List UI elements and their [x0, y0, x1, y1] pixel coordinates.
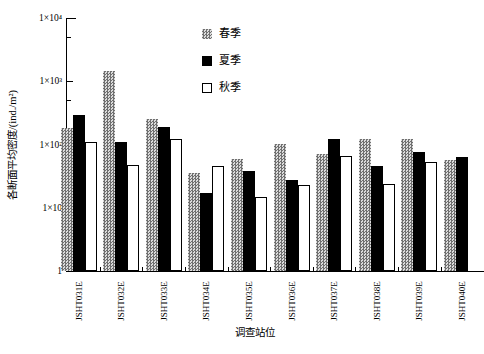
bar-black-JSHT038E	[371, 166, 383, 271]
x-category-label: JSHT035E	[243, 276, 255, 326]
y-tick-label: 1×10	[16, 202, 62, 214]
bar-white-JSHT034E	[212, 166, 224, 271]
bar-hatch-JSHT039E	[401, 139, 413, 271]
bar-white-JSHT031E	[85, 142, 97, 271]
x-category-label: JSHT036E	[286, 276, 298, 326]
y-tick-label: 1×10⁴	[16, 12, 62, 24]
summer-black-swatch-icon	[202, 56, 212, 66]
bar-black-JSHT031E	[73, 115, 85, 271]
bar-black-JSHT037E	[328, 139, 340, 271]
x-category-label: JSHT032E	[115, 276, 127, 326]
y-major-tick	[67, 81, 73, 82]
y-major-tick	[67, 18, 76, 19]
x-axis-line	[66, 271, 484, 272]
legend-label-autumn: 秋季	[219, 81, 241, 94]
bar-black-JSHT039E	[413, 152, 425, 271]
bar-white-JSHT037E	[340, 156, 352, 271]
y-tick-label: 1×10²	[16, 139, 62, 151]
y-major-tick	[67, 271, 73, 272]
bar-hatch-JSHT036E	[274, 144, 286, 271]
x-tick	[100, 267, 101, 271]
bar-hatch-JSHT040E	[444, 160, 456, 271]
bar-chart-figure: 各断面平均密度/(ind./m²) 1×10⁴1×10³1×10²1×101JS…	[0, 0, 484, 354]
bar-hatch-JSHT038E	[359, 139, 371, 271]
x-tick	[185, 267, 186, 271]
bar-hatch-JSHT034E	[188, 173, 200, 271]
y-tick-label: 1	[16, 265, 62, 277]
x-category-label: JSHT039E	[413, 276, 425, 326]
bar-hatch-JSHT031E	[61, 128, 73, 271]
legend-label-spring: 春季	[219, 27, 241, 40]
x-category-label: JSHT034E	[200, 276, 212, 326]
x-category-label: JSHT033E	[158, 276, 170, 326]
y-minor-tick	[67, 100, 71, 101]
y-minor-tick	[67, 37, 71, 38]
x-tick	[355, 267, 356, 271]
y-tick-label: 1×10³	[16, 75, 62, 87]
x-tick	[441, 267, 442, 271]
x-tick	[270, 267, 271, 271]
bar-black-JSHT036E	[286, 180, 298, 271]
bar-white-JSHT039E	[425, 162, 437, 271]
bar-white-JSHT038E	[383, 184, 395, 271]
x-tick	[142, 267, 143, 271]
bar-black-JSHT035E	[243, 171, 255, 271]
legend: 春季 夏季 秋季	[202, 27, 241, 108]
legend-item-summer: 夏季	[202, 54, 241, 67]
bar-white-JSHT035E	[255, 197, 267, 271]
bar-hatch-JSHT037E	[316, 154, 328, 271]
autumn-white-swatch-icon	[202, 83, 212, 93]
spring-hatched-swatch-icon	[202, 29, 212, 39]
bar-black-JSHT040E	[456, 157, 468, 271]
legend-item-spring: 春季	[202, 27, 241, 40]
x-tick	[398, 267, 399, 271]
bar-hatch-JSHT035E	[231, 159, 243, 271]
x-category-label: JSHT038E	[371, 276, 383, 326]
x-tick	[228, 267, 229, 271]
legend-item-autumn: 秋季	[202, 81, 241, 94]
x-tick	[313, 267, 314, 271]
x-axis-title: 调查站位	[195, 326, 315, 340]
bar-hatch-JSHT033E	[146, 119, 158, 271]
bar-white-JSHT036E	[298, 185, 310, 271]
x-category-label: JSHT031E	[73, 276, 85, 326]
x-category-label: JSHT037E	[328, 276, 340, 326]
legend-label-summer: 夏季	[219, 54, 241, 67]
bar-white-JSHT033E	[170, 139, 182, 271]
bar-white-JSHT032E	[127, 165, 139, 271]
bar-black-JSHT034E	[200, 193, 212, 271]
x-category-label: JSHT040E	[456, 276, 468, 326]
bar-black-JSHT033E	[158, 127, 170, 271]
bar-hatch-JSHT032E	[103, 71, 115, 271]
bar-black-JSHT032E	[115, 142, 127, 271]
